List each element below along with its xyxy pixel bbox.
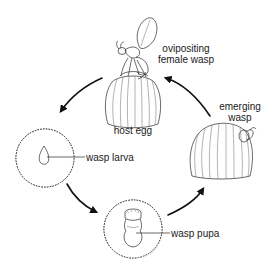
wasp-larva-illustration [16,129,74,187]
host-egg-with-wasp-illustration [105,18,160,128]
wasp-pupa-illustration [104,200,162,258]
emerging-label-line1: emerging [219,101,261,112]
ovipositing-label-line1: ovipositing [162,43,209,54]
wasp-pupa-label: wasp pupa [170,228,220,239]
wasp-larva-label: wasp larva [85,152,134,163]
host-egg-label: host egg [114,125,152,136]
emerging-wasp-illustration [190,123,256,179]
ovipositing-label-line2: female wasp [158,54,215,65]
wasp-life-cycle-diagram: ovipositing female wasp host egg wasp la… [0,0,274,266]
arrow-pupa-to-emerging [168,189,203,215]
arrow-emerging-to-egg [166,78,210,116]
emerging-label-line2: wasp [227,112,252,123]
arrow-egg-to-larva [61,78,102,111]
arrow-larva-to-pupa [67,184,96,212]
